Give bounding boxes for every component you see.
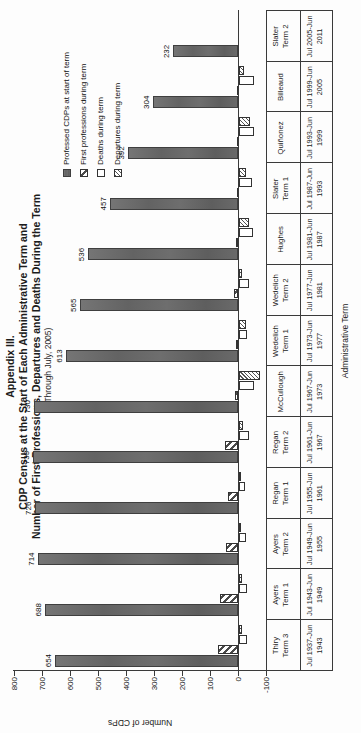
category-dates-label-2: Jul 1949-Jun1955 [305, 520, 332, 569]
category-term-label-6: WedelichTerm 1 [271, 317, 300, 366]
category-dates-label-3: Jul 1955-Jun1961 [305, 469, 332, 518]
category-dates-label-line: Jul 1949-Jun [305, 520, 315, 569]
category-dates-label-9: Jul 1987-Jun1993 [305, 164, 332, 213]
bar-departures-8 [239, 219, 249, 228]
bar-value-label-6: 613 [55, 339, 64, 373]
bar-departures-11 [239, 66, 244, 75]
x-axis-line [266, 10, 267, 671]
category-dates-label-1: Jul 1943-Jun1949 [305, 570, 332, 619]
bar-value-label-7: 565 [69, 288, 78, 322]
category-term-label-line: Term 1 [281, 317, 291, 366]
category-term-label-line: Term 2 [281, 520, 291, 569]
category-separator-line [266, 467, 332, 468]
bar-departures-3 [239, 472, 241, 481]
category-dates-label-line: Jul 1943-Jun [305, 570, 315, 619]
legend-swatch-icon [97, 169, 105, 177]
bar-professed-1 [45, 604, 238, 616]
bar-deaths-9 [239, 178, 252, 187]
category-separator-line [266, 670, 332, 671]
legend-item-1: First professions during term [75, 52, 92, 177]
category-term-label-line: Term 1 [281, 469, 291, 518]
bar-value-label-3: 726 [24, 491, 33, 525]
category-term-label-line: Regan [271, 418, 281, 467]
category-separator-line [266, 10, 332, 11]
category-term-label-line: Term 3 [281, 621, 291, 670]
bar-deaths-0 [239, 635, 247, 644]
bar-departures-7 [239, 269, 242, 278]
legend-swatch-icon [80, 169, 88, 177]
y-axis-tickmark [126, 671, 127, 676]
y-axis-tick-label: 600 [66, 677, 75, 707]
y-axis-tick-label: 200 [178, 677, 187, 707]
legend-label: Professed CDPs at start of term [62, 52, 71, 165]
category-separator-line [266, 416, 332, 417]
bar-professed-10 [128, 147, 238, 159]
category-term-label-line: Wedelich [271, 266, 281, 315]
category-term-label-line: Ayers [271, 570, 281, 619]
bar-first-2 [226, 543, 238, 552]
bar-professed-9 [110, 198, 238, 210]
y-axis-tickmark [98, 671, 99, 676]
bar-deaths-11 [239, 76, 254, 85]
bar-professed-7 [80, 299, 238, 311]
category-term-label-line: Regan [271, 469, 281, 518]
category-dates-label-line: 1949 [315, 570, 325, 619]
category-term-label-line: Term 2 [281, 266, 291, 315]
bar-value-label-8: 536 [77, 238, 86, 272]
bar-deaths-2 [239, 533, 246, 542]
category-term-label-7: WedelichTerm 2 [271, 266, 300, 315]
category-term-label-4: ReganTerm 2 [271, 418, 300, 467]
y-axis-tickmark [42, 671, 43, 676]
bar-first-0 [218, 645, 238, 654]
category-separator-line [266, 365, 332, 366]
legend-label: First professions during term [79, 64, 88, 165]
bar-value-label-1: 688 [34, 593, 43, 627]
chart-title-line-1: Appendix III. [4, 0, 17, 733]
bar-deaths-5 [239, 381, 254, 390]
category-term-label-line: Slater [271, 164, 281, 213]
category-dates-label-line: Jul 1967-Jun [305, 367, 315, 416]
bar-deaths-10 [239, 127, 254, 136]
bar-deaths-3 [239, 482, 245, 491]
category-term-label-line: Quiñonez [276, 114, 286, 163]
category-dates-label-line: Jul 1937-Jun [305, 621, 315, 670]
bar-departures-6 [239, 320, 246, 329]
category-dates-label-line: Jul 1973-Jun [305, 317, 315, 366]
category-dates-label-7: Jul 1977-Jun1981 [305, 266, 332, 315]
y-axis-tickmark [238, 671, 239, 676]
category-term-label-8: Hughes [271, 215, 305, 264]
category-term-label-11: Billeaud [271, 63, 305, 112]
bar-departures-4 [239, 422, 243, 431]
category-term-label-10: Quiñonez [271, 114, 305, 163]
legend-label: Departures during term [113, 83, 122, 165]
category-dates-label-line: 2005 [315, 63, 325, 112]
zero-baseline [238, 10, 239, 671]
category-dates-label-line: 2011 [315, 12, 325, 61]
y-axis-tickmark [182, 671, 183, 676]
bar-value-label-4: 733 [22, 441, 31, 475]
category-dates-label-line: 1943 [315, 621, 325, 670]
category-dates-label-0: Jul 1937-Jun1943 [305, 621, 332, 670]
category-dates-label-line: Jul 1981-Jun [305, 215, 315, 264]
category-separator-line [266, 61, 332, 62]
category-dates-label-11: Jul 1999-Jun2005 [305, 63, 332, 112]
y-axis-tick-label: 500 [94, 677, 103, 707]
category-separator-line [266, 518, 332, 519]
category-term-label-line: Hughes [276, 215, 286, 264]
category-dates-label-line: 1961 [315, 469, 325, 518]
bar-professed-11 [153, 96, 238, 108]
category-dates-label-8: Jul 1981-Jun1987 [305, 215, 332, 264]
category-dates-label-line: 1981 [315, 266, 325, 315]
category-dates-label-line: Jul 1955-Jun [305, 469, 315, 518]
legend-item-2: Deaths during term [92, 52, 109, 177]
category-separator-line [266, 264, 332, 265]
legend-label: Deaths during term [96, 97, 105, 165]
category-term-label-line: Thiry [271, 621, 281, 670]
y-axis-tick-label: 400 [122, 677, 131, 707]
legend-swatch-icon [63, 169, 71, 177]
category-term-label-0: ThiryTerm 3 [271, 621, 300, 670]
category-term-label-line: Ayers [271, 520, 281, 569]
y-axis-title: Number of CDPs [107, 718, 171, 728]
y-axis-tick-label: 300 [150, 677, 159, 707]
bar-value-label-0: 654 [44, 644, 53, 678]
